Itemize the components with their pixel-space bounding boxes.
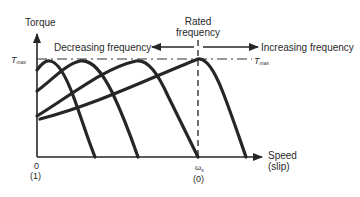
synchronous-slip-label: (0) [193, 174, 204, 184]
origin-slip-label: (1) [30, 171, 41, 181]
tmax-right-label: Tmax [254, 56, 269, 66]
curve-rated-frequency [40, 59, 246, 157]
x-axis-label: Speed [268, 150, 297, 161]
rated-frequency-label-line2: frequency [176, 27, 220, 38]
decreasing-frequency-label: Decreasing frequency [54, 42, 151, 53]
torque-speed-diagram: Torque Speed (slip) 0 (1) ωs (0) Tmax Tm… [0, 0, 360, 197]
origin-speed-label: 0 [34, 161, 39, 171]
curve-mid-frequency [37, 61, 198, 157]
curve-low-frequency [37, 61, 138, 157]
rated-frequency-label-line1: Rated [185, 16, 212, 27]
y-axis-label: Torque [25, 17, 56, 28]
x-axis-sublabel: (slip) [268, 161, 290, 172]
synchronous-speed-label: ωs [195, 163, 204, 173]
tmax-left-label: Tmax [11, 55, 26, 65]
increasing-frequency-label: Increasing frequency [261, 42, 354, 53]
